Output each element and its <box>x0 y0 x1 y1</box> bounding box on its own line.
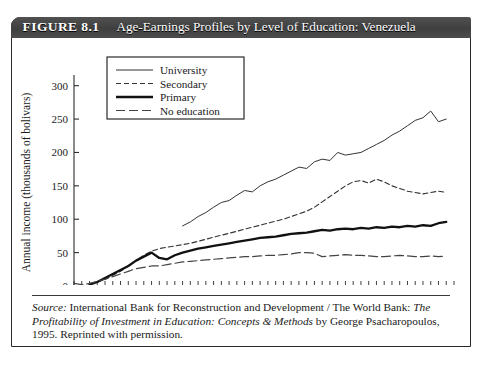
figure-header-bar: FIGURE 8.1 Age-Earnings Profiles by Leve… <box>11 17 471 38</box>
series-line-university <box>183 111 447 226</box>
y-tick-label: 200 <box>52 146 69 158</box>
figure-box: FIGURE 8.1 Age-Earnings Profiles by Leve… <box>11 17 471 347</box>
age-earnings-line-chart: 05010015020025030010254055AgeAnnual inco… <box>12 39 469 285</box>
figure-number: FIGURE 8.1 <box>23 19 100 35</box>
y-tick-label: 0 <box>63 280 69 285</box>
legend-label-no-education: No education <box>160 105 220 117</box>
source-caption: Source: International Bank for Reconstru… <box>32 301 452 342</box>
y-tick-label: 150 <box>52 180 69 192</box>
source-label: Source: <box>32 301 67 313</box>
chart-plot-area: 05010015020025030010254055AgeAnnual inco… <box>12 39 469 285</box>
y-tick-label: 250 <box>52 113 69 125</box>
y-tick-label: 50 <box>57 247 69 259</box>
figure-title: Age-Earnings Profiles by Level of Educat… <box>116 19 415 35</box>
source-text-part1: International Bank for Reconstruction an… <box>67 301 414 313</box>
y-axis-title: Annual income (thousands of bolivars) <box>20 93 33 273</box>
series-line-primary <box>90 222 447 285</box>
series-line-secondary <box>90 179 447 284</box>
legend-label-university: University <box>160 64 208 76</box>
series-line-no-education <box>74 253 446 285</box>
legend-label-primary: Primary <box>160 91 196 103</box>
legend-label-secondary: Secondary <box>160 78 208 90</box>
y-tick-label: 300 <box>52 80 69 92</box>
y-tick-label: 100 <box>52 213 69 225</box>
caption-divider <box>32 295 450 296</box>
